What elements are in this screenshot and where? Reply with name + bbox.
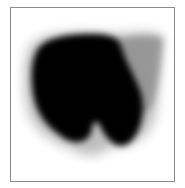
image-frame <box>10 7 175 182</box>
blot-image <box>11 8 175 182</box>
